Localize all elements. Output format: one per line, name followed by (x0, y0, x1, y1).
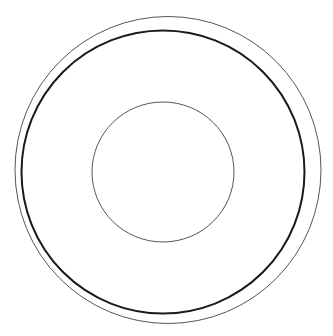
concentric-circles-diagram (0, 0, 333, 336)
background (0, 0, 333, 336)
